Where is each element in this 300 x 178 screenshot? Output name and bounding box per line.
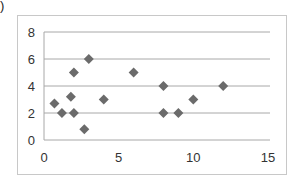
y-tick-label: 6	[28, 52, 35, 67]
data-point-diamond	[69, 68, 79, 78]
x-tick-label: 15	[261, 150, 275, 165]
x-tick-label: 10	[186, 150, 200, 165]
x-tick-label: 5	[115, 150, 122, 165]
data-point-diamond	[66, 92, 76, 102]
data-points	[49, 54, 228, 134]
data-point-diamond	[84, 54, 94, 64]
data-point-diamond	[99, 95, 109, 105]
data-point-diamond	[69, 108, 79, 118]
data-point-diamond	[158, 108, 168, 118]
data-point-diamond	[158, 81, 168, 91]
data-point-diamond	[57, 108, 67, 118]
y-tick-label: 8	[28, 25, 35, 40]
data-point-diamond	[49, 99, 59, 109]
x-tick-label: 0	[40, 150, 47, 165]
scatter-chart: 02468 051015	[0, 0, 300, 178]
y-tick-label: 4	[28, 79, 35, 94]
y-tick-label: 0	[28, 133, 35, 148]
data-point-diamond	[188, 95, 198, 105]
data-point-diamond	[79, 124, 89, 134]
gridlines	[44, 32, 270, 140]
y-tick-label: 2	[28, 106, 35, 121]
data-point-diamond	[173, 108, 183, 118]
data-point-diamond	[218, 81, 228, 91]
x-axis-ticks: 051015	[40, 150, 275, 165]
data-point-diamond	[129, 68, 139, 78]
y-axis-ticks: 02468	[28, 25, 35, 148]
